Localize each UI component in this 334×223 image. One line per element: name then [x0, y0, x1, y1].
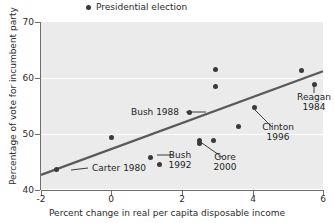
annotation-bush-1988: Bush 1988	[131, 107, 179, 117]
annotation-bush-1992: Bush 1992	[160, 150, 200, 170]
chart-figure: Presidential election 70 60 50 40 -2 0 2…	[0, 0, 334, 223]
annotation-reagan-1984-line2: 1984	[292, 102, 334, 112]
annotation-clinton-1996-line2: 1996	[256, 132, 300, 142]
annotation-reagan-1984-line1: Reagan	[292, 92, 334, 102]
data-point[interactable]	[109, 135, 114, 140]
data-point-clinton-1996[interactable]	[252, 105, 257, 110]
data-point-reagan-1984[interactable]	[312, 82, 317, 87]
annotation-reagan-1984: Reagan 1984	[292, 92, 334, 112]
data-point-bush-1992-a[interactable]	[148, 155, 153, 160]
annotation-clinton-1996: Clinton 1996	[256, 122, 300, 142]
annotation-bush-1988-line1: Bush 1988	[131, 107, 179, 117]
leader-line-carter-1980	[71, 168, 88, 170]
annotation-bush-1992-line1: Bush	[160, 150, 200, 160]
data-point[interactable]	[213, 67, 218, 72]
annotation-clinton-1996-line1: Clinton	[256, 122, 300, 132]
annotation-gore-2000-line2: 2000	[205, 162, 245, 172]
data-point[interactable]	[213, 84, 218, 89]
annotation-carter-1980-line1: Carter 1980	[92, 163, 146, 173]
annotation-carter-1980: Carter 1980	[92, 163, 146, 173]
annotation-gore-2000-line1: Gore	[205, 152, 245, 162]
data-point-bush-1988[interactable]	[187, 110, 192, 115]
annotation-gore-2000: Gore 2000	[205, 152, 245, 172]
annotation-bush-1992-line2: 1992	[160, 160, 200, 170]
